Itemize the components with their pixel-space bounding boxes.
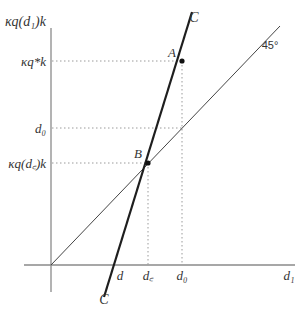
curve-C-label-bottom: C [99,292,109,307]
y-tick-kq-star: κq*k [21,54,46,69]
x-axis-label: d₁ [283,268,294,283]
line-45-degree [51,26,280,265]
point-B-label: B [134,146,142,161]
x-tick-d0: d₀ [176,268,187,283]
y-axis-label: κq(d₁)k [5,14,47,30]
point-A [179,58,184,63]
label-45-degree: 45° [262,39,279,51]
diagram-canvas: κq(d₁)k κq*k d₀ κq(d꜀)k d d꜀ d₀ d₁ C C 4… [0,0,308,317]
point-B [145,160,150,165]
x-tick-d: d [117,268,124,283]
point-A-label: A [167,45,176,60]
x-tick-dc: d꜀ [143,268,155,283]
y-tick-d0: d₀ [35,121,46,136]
curve-C [104,12,192,297]
curve-C-label-top: C [189,10,199,25]
y-tick-kq-dc: κq(d꜀)k [8,156,46,171]
